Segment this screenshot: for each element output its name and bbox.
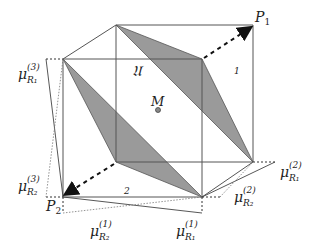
svg-text:μ: μ	[18, 66, 27, 82]
label-P2: P2	[45, 198, 61, 216]
svg-text:μ: μ	[176, 223, 185, 239]
svg-text:μ: μ	[18, 178, 27, 194]
label-M: M	[150, 94, 165, 109]
label-mu-R1-1: μ (1) R₁	[176, 219, 198, 242]
svg-text:(3): (3)	[27, 174, 40, 184]
svg-text:R₂: R₂	[26, 187, 38, 197]
arrow-to-P1	[204, 28, 250, 58]
arrow-to-P2	[66, 164, 114, 194]
label-mu-R2-2: μ (2) R₂	[234, 185, 256, 208]
svg-text:R₁: R₁	[26, 75, 37, 85]
svg-text:μ: μ	[90, 223, 99, 239]
svg-text:μ: μ	[234, 189, 243, 205]
svg-text:(3): (3)	[27, 62, 40, 72]
label-P1: P1	[254, 9, 270, 27]
svg-text:(2): (2)	[243, 185, 256, 195]
svg-text:μ: μ	[280, 164, 289, 180]
label-mu-R1-3: μ (3) R₁	[18, 62, 40, 85]
svg-text:(1): (1)	[185, 219, 198, 229]
svg-text:R₁: R₁	[288, 173, 299, 183]
cube-diagram: P1 P2 𝔘 𝔆1 𝔆2 M μ (3) R₁ μ (3) R₂ μ (2) …	[0, 0, 314, 249]
cube-edge-top-left	[63, 25, 116, 59]
svg-text:R₁: R₁	[184, 232, 195, 242]
projection-axis-1	[63, 197, 202, 213]
label-mu-R2-1: μ (1) R₂	[90, 219, 112, 242]
svg-text:(2): (2)	[289, 160, 302, 170]
svg-text:R₂: R₂	[98, 232, 110, 242]
label-U: 𝔘	[132, 62, 144, 80]
label-mu-R1-2: μ (2) R₁	[280, 160, 302, 183]
svg-text:R₂: R₂	[242, 198, 254, 208]
label-C1: 𝔆1	[234, 66, 240, 76]
svg-text:(1): (1)	[99, 219, 112, 229]
label-C2: 𝔆2	[123, 186, 130, 196]
label-mu-R2-3: μ (3) R₂	[18, 174, 40, 197]
projection-axis-3	[46, 59, 63, 197]
